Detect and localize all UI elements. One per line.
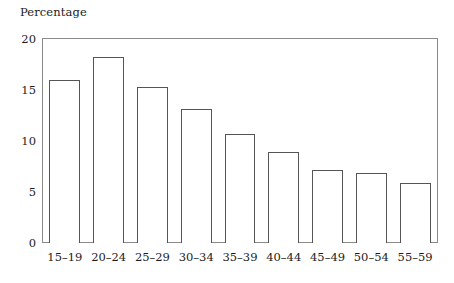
bar	[49, 80, 80, 243]
bar	[225, 134, 256, 243]
x-axis-tick-label: 40–44	[262, 250, 306, 264]
bar	[137, 87, 168, 243]
bar	[181, 109, 212, 243]
x-axis-tick-label: 50–54	[349, 250, 393, 264]
x-axis-tick-label: 55–59	[393, 250, 437, 264]
y-axis-tick-labels: 05101520	[0, 0, 36, 283]
x-axis-tick-label: 25–29	[131, 250, 175, 264]
x-axis-tick-label: 20–24	[87, 250, 131, 264]
bar-chart: Percentage 05101520 15–1920–2425–2930–34…	[0, 0, 454, 283]
bar	[268, 152, 299, 243]
y-axis-tick-label: 15	[0, 84, 36, 96]
x-axis-tick-label: 35–39	[218, 250, 262, 264]
x-axis-tick-label: 30–34	[174, 250, 218, 264]
x-axis-tick-label: 15–19	[43, 250, 87, 264]
y-axis-tick-label: 10	[0, 135, 36, 147]
bar	[400, 183, 431, 243]
bar	[93, 57, 124, 243]
plot-area	[43, 39, 437, 243]
y-axis-tick-label: 5	[0, 186, 36, 198]
y-axis-tick-label: 0	[0, 237, 36, 249]
y-axis-tick-label: 20	[0, 33, 36, 45]
bar	[356, 173, 387, 243]
bar	[312, 170, 343, 243]
x-axis-tick-label: 45–49	[306, 250, 350, 264]
